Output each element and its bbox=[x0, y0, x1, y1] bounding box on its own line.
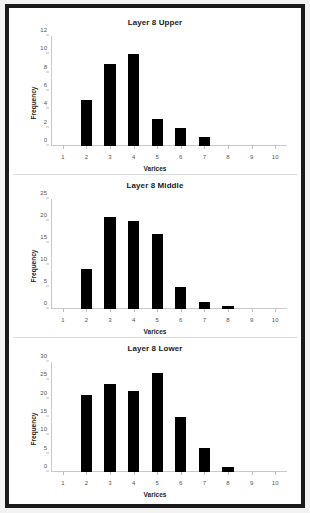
y-tick-label: 20 bbox=[40, 390, 47, 396]
x-tick-mark bbox=[110, 146, 111, 149]
y-tick-label: 0 bbox=[44, 300, 47, 306]
x-tick-mark bbox=[275, 472, 276, 475]
y-tick-mark bbox=[46, 71, 49, 72]
plot-area-lower: Frequency 051015202530 12345678910 Varic… bbox=[13, 358, 297, 500]
bar-category: 6 bbox=[169, 199, 193, 309]
x-tick-label: 4 bbox=[122, 480, 146, 486]
bar-category: 6 bbox=[169, 36, 193, 146]
x-tick-label: 9 bbox=[240, 154, 264, 160]
figure-page: Layer 8 Upper Frequency 024681012 123456… bbox=[0, 0, 310, 513]
bar-category: 7 bbox=[193, 362, 217, 472]
bar-category: 1 bbox=[51, 362, 75, 472]
bar bbox=[152, 119, 163, 147]
y-tick-label: 8 bbox=[44, 64, 47, 70]
x-tick-mark bbox=[204, 309, 205, 312]
bar-category: 7 bbox=[193, 199, 217, 309]
x-tick-label: 8 bbox=[216, 154, 240, 160]
y-tick-mark bbox=[46, 264, 49, 265]
x-tick-label: 7 bbox=[193, 317, 217, 323]
y-tick-mark bbox=[46, 434, 49, 435]
x-tick-mark bbox=[228, 309, 229, 312]
x-tick-mark bbox=[252, 146, 253, 149]
plot-area-middle: Frequency 0510152025 12345678910 Varices bbox=[13, 195, 297, 337]
bar-category: 3 bbox=[98, 199, 122, 309]
x-tick-mark bbox=[63, 146, 64, 149]
bar-category: 3 bbox=[98, 362, 122, 472]
y-tick-label: 25 bbox=[40, 190, 47, 196]
x-tick-label: 5 bbox=[145, 480, 169, 486]
bar-category: 8 bbox=[216, 199, 240, 309]
y-tick-label: 10 bbox=[40, 426, 47, 432]
x-tick-label: 8 bbox=[216, 317, 240, 323]
x-tick-label: 9 bbox=[240, 480, 264, 486]
y-tick-label: 0 bbox=[44, 137, 47, 143]
x-axis-label: Varices bbox=[13, 491, 297, 498]
bar-category: 4 bbox=[122, 362, 146, 472]
x-tick-mark bbox=[157, 146, 158, 149]
x-tick-label: 4 bbox=[122, 317, 146, 323]
x-tick-label: 10 bbox=[263, 480, 287, 486]
x-tick-mark bbox=[181, 146, 182, 149]
bar-category: 8 bbox=[216, 36, 240, 146]
y-tick-mark bbox=[46, 361, 49, 362]
bar-category: 5 bbox=[145, 199, 169, 309]
x-tick-label: 2 bbox=[75, 480, 99, 486]
x-tick-label: 10 bbox=[263, 154, 287, 160]
x-axis-label: Varices bbox=[13, 165, 297, 172]
bar bbox=[128, 391, 139, 472]
x-tick-label: 1 bbox=[51, 480, 75, 486]
y-tick-mark bbox=[46, 242, 49, 243]
x-tick-mark bbox=[63, 472, 64, 475]
bar bbox=[199, 448, 210, 472]
x-tick-mark bbox=[134, 472, 135, 475]
y-tick-label: 25 bbox=[40, 371, 47, 377]
x-tick-label: 3 bbox=[98, 480, 122, 486]
y-tick-mark bbox=[46, 397, 49, 398]
y-tick-mark bbox=[46, 416, 49, 417]
bar-category: 10 bbox=[263, 199, 287, 309]
x-tick-mark bbox=[275, 146, 276, 149]
bar-series: 12345678910 bbox=[51, 36, 287, 146]
bar-category: 2 bbox=[75, 36, 99, 146]
bar bbox=[81, 100, 92, 146]
bar-category: 4 bbox=[122, 199, 146, 309]
bar bbox=[81, 395, 92, 472]
chart-title: Layer 8 Middle bbox=[13, 181, 297, 190]
plot-canvas: 0510152025 12345678910 bbox=[51, 199, 287, 309]
x-tick-label: 6 bbox=[169, 480, 193, 486]
y-tick-mark bbox=[46, 452, 49, 453]
bar-series: 12345678910 bbox=[51, 199, 287, 309]
bar-category: 1 bbox=[51, 36, 75, 146]
chart-panel-upper: Layer 8 Upper Frequency 024681012 123456… bbox=[13, 12, 297, 175]
x-tick-mark bbox=[86, 472, 87, 475]
x-tick-label: 1 bbox=[51, 317, 75, 323]
y-tick-mark bbox=[46, 35, 49, 36]
x-tick-label: 8 bbox=[216, 480, 240, 486]
bar-category: 5 bbox=[145, 362, 169, 472]
bar-series: 12345678910 bbox=[51, 362, 287, 472]
y-axis-label: Frequency bbox=[30, 413, 37, 446]
y-tick-mark bbox=[46, 108, 49, 109]
y-tick-mark bbox=[46, 90, 49, 91]
y-tick-mark bbox=[46, 308, 49, 309]
x-tick-mark bbox=[157, 309, 158, 312]
x-tick-label: 7 bbox=[193, 154, 217, 160]
bar bbox=[175, 128, 186, 146]
x-tick-mark bbox=[228, 472, 229, 475]
x-tick-mark bbox=[134, 146, 135, 149]
x-tick-label: 5 bbox=[145, 154, 169, 160]
y-tick-mark bbox=[46, 471, 49, 472]
bar bbox=[152, 234, 163, 309]
figure-frame: Layer 8 Upper Frequency 024681012 123456… bbox=[5, 4, 305, 508]
y-tick-mark bbox=[46, 126, 49, 127]
bar-category: 2 bbox=[75, 362, 99, 472]
x-tick-mark bbox=[63, 309, 64, 312]
x-tick-label: 4 bbox=[122, 154, 146, 160]
y-tick-label: 20 bbox=[40, 212, 47, 218]
y-tick-label: 15 bbox=[40, 234, 47, 240]
x-tick-mark bbox=[157, 472, 158, 475]
y-tick-label: 5 bbox=[44, 445, 47, 451]
plot-area-upper: Frequency 024681012 12345678910 Varices bbox=[13, 32, 297, 174]
bar-category: 9 bbox=[240, 199, 264, 309]
x-tick-mark bbox=[110, 472, 111, 475]
